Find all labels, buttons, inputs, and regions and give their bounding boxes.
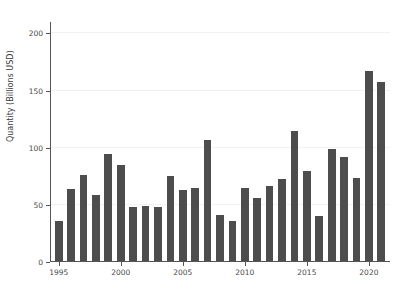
bar [80,175,88,261]
y-tick-label: 200 [29,29,43,38]
bar [129,207,137,261]
x-tick-label: 2020 [359,268,378,277]
bar [167,176,175,261]
bar [92,195,100,261]
gridline [50,204,390,205]
y-axis-label: Quantity (Billions USD) [6,50,15,142]
x-tick-mark [121,262,122,266]
x-tick-mark [369,262,370,266]
bar [266,186,274,261]
y-tick-label: 150 [29,86,43,95]
x-tick-mark [59,262,60,266]
bar [142,206,150,261]
x-tick-label: 2000 [111,268,130,277]
y-axis-spine [50,22,51,262]
x-tick-mark [245,262,246,266]
bar [117,165,125,261]
bar [365,71,373,261]
bar [67,189,75,261]
gridline [50,90,390,91]
bar [204,140,212,261]
y-tick-mark [46,262,50,263]
bar [154,207,162,261]
bar-chart-figure: Quantity (Billions USD) 050100150200 199… [0,0,400,296]
x-axis-spine [50,261,390,262]
bar [353,178,361,261]
y-tick-label: 50 [33,200,43,209]
bar [55,221,63,261]
bar [340,157,348,261]
x-tick-label: 2005 [173,268,192,277]
bar [216,215,224,261]
bar [303,171,311,261]
gridline [50,32,390,33]
bar [328,149,336,261]
y-tick-label: 100 [29,143,43,152]
bar [377,82,385,261]
bar [253,198,261,261]
bar [291,131,299,261]
bar [241,188,249,261]
bar [104,154,112,261]
x-tick-label: 1995 [49,268,68,277]
gridline [50,147,390,148]
bar [179,190,187,261]
bar [278,179,286,261]
plot-area: 050100150200 199520002005201020152020 [50,22,390,262]
x-tick-mark [183,262,184,266]
x-tick-label: 2010 [235,268,254,277]
x-tick-label: 2015 [297,268,316,277]
x-tick-mark [307,262,308,266]
bar [191,188,199,261]
y-tick-label: 0 [38,258,43,267]
bar [315,216,323,261]
bar [229,221,237,261]
